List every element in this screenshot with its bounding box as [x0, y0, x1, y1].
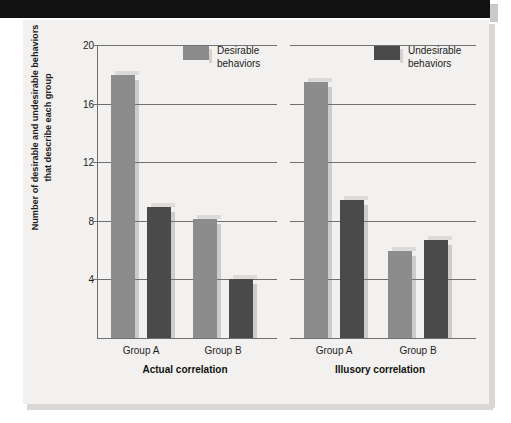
tick-4-left — [93, 279, 97, 280]
group-label-illusory-a: Group A — [316, 345, 353, 356]
bar-body — [304, 82, 328, 338]
bar-body — [424, 240, 448, 338]
bar-shadow-right — [412, 256, 416, 338]
y-tick-label-8: 8 — [72, 216, 94, 227]
bar-body — [193, 219, 217, 338]
legend-item-desirable: Desirable behaviors — [183, 45, 260, 70]
bar-illusory-groupB-undesirable — [424, 240, 448, 338]
legend-swatch-shadow — [209, 49, 212, 63]
legend-label-undesirable: Undesirable behaviors — [408, 45, 461, 70]
tick-12-left — [93, 162, 97, 163]
y-tick-label-12: 12 — [72, 157, 94, 168]
legend-swatch-shadow — [400, 49, 403, 63]
bar-illusory-groupA-undesirable — [340, 200, 364, 338]
bar-shadow-right — [328, 87, 332, 338]
x-axis-line-left — [97, 338, 277, 339]
bar-body — [229, 279, 253, 338]
bar-actual-groupA-undesirable — [147, 207, 171, 338]
tick-16-left — [93, 104, 97, 105]
tick-20-left — [93, 45, 97, 46]
panel-actual-correlation: Group A Group B Actual correlation Desir… — [97, 0, 277, 423]
y-tick-label-20: 20 — [72, 40, 94, 51]
bar-shadow-right — [364, 205, 368, 338]
panel-label-actual-correlation: Actual correlation — [142, 364, 227, 375]
y-tick-label-4: 4 — [72, 274, 94, 285]
tick-8-left — [93, 221, 97, 222]
bar-shadow-right — [448, 245, 452, 338]
bar-shadow-right — [135, 80, 139, 338]
panel-illusory-correlation: Group A Group B Illusory correlation Und… — [290, 0, 476, 423]
legend-swatch-desirable-wrap — [183, 45, 209, 60]
panel-label-illusory-correlation: Illusory correlation — [335, 364, 425, 375]
bar-shadow-right — [171, 212, 175, 338]
top-banner-shadow — [490, 4, 498, 22]
bar-body — [388, 251, 412, 338]
group-label-actual-b: Group B — [204, 345, 241, 356]
figure-root: Number of desirable and undesirable beha… — [0, 0, 511, 423]
bar-body — [340, 200, 364, 338]
y-axis-title: Number of desirable and undesirable beha… — [29, 23, 54, 233]
plate-shadow-right — [489, 24, 495, 408]
bar-shadow-right — [217, 224, 221, 338]
legend-swatch-undesirable-wrap — [374, 45, 400, 60]
bar-shadow-right — [253, 284, 257, 338]
bar-actual-groupB-undesirable — [229, 279, 253, 338]
group-label-actual-a: Group A — [123, 345, 160, 356]
bar-body — [147, 207, 171, 338]
bar-illusory-groupB-desirable — [388, 251, 412, 338]
y-tick-label-16: 16 — [72, 99, 94, 110]
bar-illusory-groupA-desirable — [304, 82, 328, 338]
bar-actual-groupA-desirable — [111, 75, 135, 338]
x-axis-line-right — [290, 338, 476, 339]
y-tick-labels: 20 16 12 8 4 — [72, 0, 94, 423]
group-label-illusory-b: Group B — [399, 345, 436, 356]
legend-label-desirable: Desirable behaviors — [217, 45, 260, 70]
bar-actual-groupB-desirable — [193, 219, 217, 338]
bar-body — [111, 75, 135, 338]
legend-swatch-desirable-icon — [183, 46, 209, 60]
y-axis-line-left — [97, 45, 98, 338]
legend-item-undesirable: Undesirable behaviors — [374, 45, 461, 70]
legend-swatch-undesirable-icon — [374, 46, 400, 60]
